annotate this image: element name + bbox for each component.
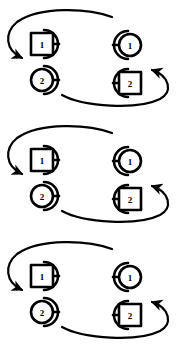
node-label-right-2: 2: [128, 79, 133, 89]
connector-arrows: [8, 126, 168, 222]
node-label-right-2: 2: [128, 195, 133, 205]
diagram-stack: 121212121212: [0, 0, 177, 348]
panel-graphics: [31, 30, 141, 97]
node-label-right-1: 1: [128, 273, 133, 283]
panel-graphics: [31, 262, 141, 329]
node-label-left-1: 1: [40, 40, 45, 50]
diagram-panel-3: 1212: [0, 232, 177, 348]
connector-arrows: [8, 242, 168, 338]
node-label-left-1: 1: [40, 272, 45, 282]
node-label-right-1: 1: [128, 41, 133, 51]
diagram-panel-1: 1212: [0, 0, 177, 116]
node-label-left-2: 2: [40, 76, 45, 86]
node-label-left-1: 1: [40, 156, 45, 166]
diagram-panel-2: 1212: [0, 116, 177, 232]
node-label-left-2: 2: [40, 308, 45, 318]
panel-graphics: [31, 146, 141, 213]
connector-arrows: [8, 10, 168, 106]
node-label-right-1: 1: [128, 157, 133, 167]
node-label-left-2: 2: [40, 192, 45, 202]
node-label-right-2: 2: [128, 311, 133, 321]
